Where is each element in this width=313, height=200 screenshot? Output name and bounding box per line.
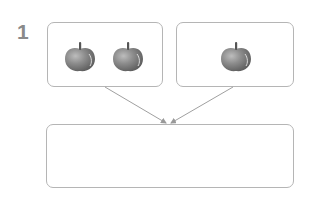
problem-number: 1 xyxy=(17,21,29,42)
apple-icon xyxy=(219,40,253,74)
answer-box[interactable] xyxy=(46,124,294,188)
apple-icon xyxy=(63,40,97,74)
left-arrow xyxy=(105,87,166,123)
apple-icon xyxy=(111,40,145,74)
right-arrow xyxy=(171,87,233,123)
